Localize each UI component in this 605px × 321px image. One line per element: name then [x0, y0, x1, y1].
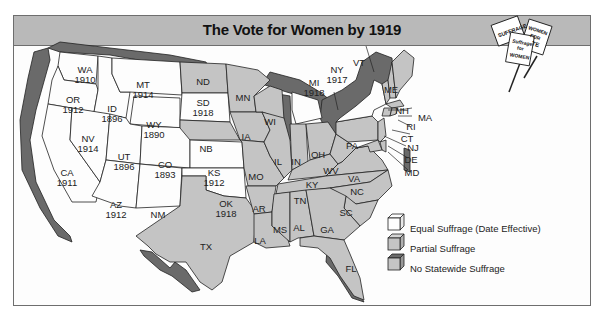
label-KY: KY [306, 179, 319, 190]
label-VT: VT [353, 57, 365, 68]
label-WI: WI [264, 116, 276, 127]
label-NH: NH [395, 105, 409, 116]
label-TX: TX [200, 241, 213, 252]
label-WY: WY1890 [143, 119, 164, 140]
us-map: WA1910 OR1912 CA1911 ID1896 NV1914 MT191… [0, 0, 605, 321]
legend-label-partial: Partial Suffrage [410, 243, 475, 254]
label-VA: VA [348, 173, 361, 184]
state-KS [190, 140, 244, 168]
legend-label-equal: Equal Suffrage (Date Effective) [410, 223, 541, 234]
label-OH: OH [311, 149, 325, 160]
label-NM: NM [151, 209, 166, 220]
label-MI: MI1918 [303, 77, 324, 98]
legend-swatch-none [388, 254, 404, 270]
label-IN: IN [291, 156, 301, 167]
label-AL: AL [293, 222, 305, 233]
label-IL: IL [274, 156, 282, 167]
label-DE: DE [404, 154, 417, 165]
legend-swatch-equal [388, 214, 404, 230]
legend-swatch-partial [388, 234, 404, 250]
label-TN: TN [294, 195, 307, 206]
label-LA: LA [254, 235, 266, 246]
label-FL: FL [345, 263, 356, 274]
label-GA: GA [320, 224, 334, 235]
legend-swatches [388, 214, 404, 270]
label-WA: WA1910 [74, 64, 95, 85]
state-NB [180, 120, 240, 140]
state-NJ [378, 118, 386, 142]
label-RI: RI [406, 121, 416, 132]
label-ND: ND [196, 76, 210, 87]
legend-label-none: No Statewide Suffrage [410, 263, 505, 274]
label-AR: AR [252, 203, 265, 214]
label-NJ: NJ [407, 142, 419, 153]
label-IA: IA [242, 131, 252, 142]
label-ME: ME [384, 84, 398, 95]
label-NB: NB [199, 143, 212, 154]
label-MS: MS [273, 224, 287, 235]
label-MO: MO [248, 171, 263, 182]
label-PA: PA [346, 140, 359, 151]
label-MD: MD [405, 167, 420, 178]
label-NC: NC [350, 186, 364, 197]
label-NY: NY1917 [326, 64, 347, 85]
label-MN: MN [236, 92, 251, 103]
label-SC: SC [339, 207, 352, 218]
svg-text:for: for [517, 45, 525, 52]
label-MA: MA [418, 112, 433, 123]
label-WV: WV [323, 165, 339, 176]
suffrage-signs-icon: SUFFRAGE WOMEN FOR TE Suffrage for WOMEN [491, 16, 552, 92]
